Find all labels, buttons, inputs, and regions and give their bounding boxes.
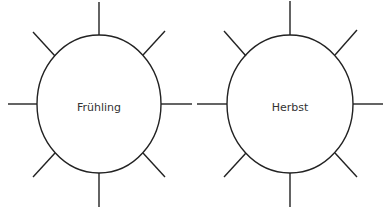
ray-top-right — [143, 31, 165, 55]
ray-bottom-right — [143, 153, 165, 177]
diagram-canvas — [0, 0, 390, 211]
ray-top-right — [335, 30, 357, 55]
ray-top-left — [224, 31, 246, 56]
ray-bottom-right — [335, 153, 357, 177]
label-fruehling: Frühling — [77, 101, 121, 114]
ray-top-left — [33, 32, 55, 56]
ray-bottom-left — [33, 153, 55, 177]
label-herbst: Herbst — [272, 101, 309, 114]
ray-bottom-left — [224, 153, 246, 177]
